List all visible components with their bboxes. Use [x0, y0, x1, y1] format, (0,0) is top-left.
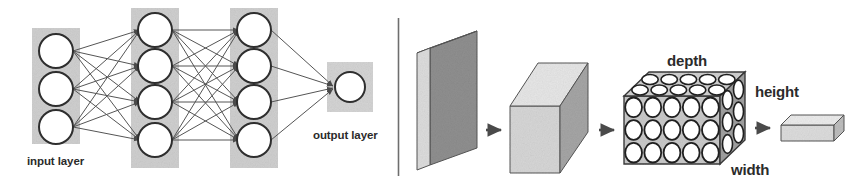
input-slab-side — [417, 48, 430, 170]
input-layer-label: input layer — [27, 155, 85, 167]
output-layer-label: output layer — [313, 129, 378, 141]
neuron-top — [680, 75, 696, 85]
node-output-1 — [335, 72, 365, 102]
neuron-front-grid — [625, 98, 719, 163]
neuron-top — [670, 85, 686, 95]
neuron-front — [702, 143, 719, 163]
neuron-front — [644, 98, 661, 118]
neuron-front — [664, 98, 681, 118]
neuron-front — [625, 98, 642, 118]
output-bar-front — [781, 125, 834, 141]
neuron-side — [723, 135, 733, 154]
neuron-front — [625, 143, 642, 163]
neuron-top — [689, 85, 705, 95]
neuron-front — [702, 120, 719, 140]
neuron-front — [644, 120, 661, 140]
neuron-top — [661, 75, 677, 85]
node-hidden1-1 — [138, 13, 172, 47]
neuron-side — [734, 102, 744, 121]
neuron-top — [699, 75, 715, 85]
diagram-canvas: input layer output layer — [0, 0, 860, 189]
neuron-front — [702, 98, 719, 118]
depth-label: depth — [667, 52, 707, 69]
neuron-front — [664, 120, 681, 140]
node-input-3 — [39, 110, 73, 144]
neuron-top — [709, 85, 725, 95]
neuron-front — [664, 143, 681, 163]
neuron-volume-shape — [624, 72, 745, 164]
input-slab-front — [430, 31, 477, 165]
feature-cube-front — [510, 106, 560, 173]
neuron-top — [719, 75, 735, 85]
node-hidden1-3 — [138, 85, 172, 119]
neuron-side — [723, 91, 733, 110]
neuron-side — [734, 80, 744, 99]
height-label: height — [755, 83, 799, 100]
node-hidden1-4 — [138, 123, 172, 157]
output-bar-top — [781, 115, 844, 125]
neuron-top — [642, 75, 658, 85]
output-bar-shape — [781, 115, 844, 141]
neuron-top — [651, 85, 667, 95]
neuron-side — [734, 124, 744, 143]
node-hidden2-2 — [237, 49, 271, 83]
node-hidden2-1 — [237, 13, 271, 47]
figure-container: input layer output layer — [0, 0, 860, 189]
neuron-front — [683, 98, 700, 118]
neuron-top — [632, 85, 648, 95]
input-slab-shape — [417, 31, 477, 170]
node-input-1 — [39, 34, 73, 68]
node-hidden2-4 — [237, 123, 271, 157]
node-input-2 — [39, 72, 73, 106]
neuron-side — [723, 113, 733, 132]
width-label: width — [730, 161, 769, 178]
neuron-front — [683, 143, 700, 163]
node-hidden2-3 — [237, 85, 271, 119]
neuron-front — [625, 120, 642, 140]
neuron-front — [644, 143, 661, 163]
node-hidden1-2 — [138, 49, 172, 83]
neuron-front — [683, 120, 700, 140]
